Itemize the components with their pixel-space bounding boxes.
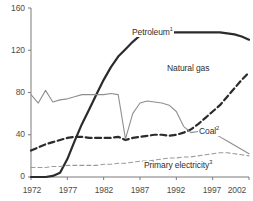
x-tick-label-1972: 1972 [16,186,48,195]
x-tick-label-1987: 1987 [124,186,156,195]
x-tick-label-1982: 1982 [88,186,120,195]
series-label-petroleum: Petroleum1 [131,28,174,37]
series-label-natural-gas-text: Natural gas [167,63,209,73]
x-tick-label-1992: 1992 [160,186,192,195]
y-tick-label-120: 120 [1,46,25,55]
x-tick-label-2002: 2002 [221,186,253,195]
series-label-coal: Coal2 [198,127,220,136]
y-tick-label-40: 40 [1,130,25,139]
line-chart: 160 120 80 40 0 1972 1977 1982 1987 1992… [0,0,253,201]
series-label-coal-text: Coal [199,126,216,136]
series-line-coal [31,90,249,153]
series-label-petroleum-footnote: 1 [170,26,173,32]
series-line-natural-gas [31,72,249,150]
series-label-primary-electricity-text: Primary electricity [144,160,209,170]
series-line-petroleum [31,31,249,177]
series-lines [31,31,249,177]
series-label-coal-footnote: 2 [216,125,219,131]
series-label-primary-electricity-footnote: 3 [209,159,212,165]
x-tick-label-1977: 1977 [52,186,84,195]
plot-area [0,0,253,201]
y-tick-label-160: 160 [1,4,25,13]
series-label-petroleum-text: Petroleum [132,27,170,37]
series-label-natural-gas: Natural gas [166,64,210,73]
y-tick-label-0: 0 [1,172,25,181]
series-label-primary-electricity: Primary electricity3 [143,161,213,170]
y-tick-label-80: 80 [1,88,25,97]
